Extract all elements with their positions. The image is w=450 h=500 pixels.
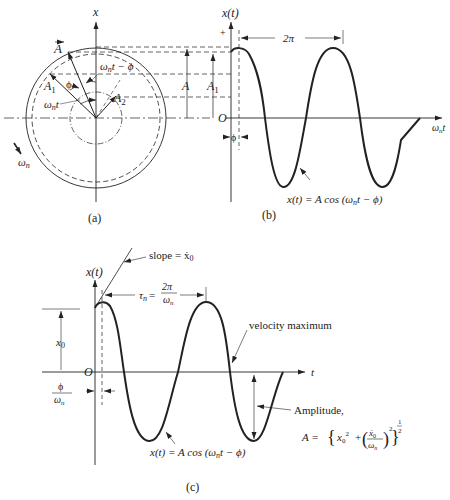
panel-c-caption: (c) bbox=[186, 480, 199, 494]
harmonic-motion-figure: x A A1 A2 ϕ ωnt ωnt − ϕ ωn A A1 (a) x(t)… bbox=[0, 0, 450, 500]
phase-denominator-c: ωn bbox=[54, 394, 65, 407]
angle-arc-wt-minus-phi bbox=[86, 81, 96, 83]
dim-A-label: A bbox=[181, 79, 190, 93]
angle-arc-wt bbox=[80, 100, 96, 104]
phase-numerator-c: ϕ bbox=[58, 381, 63, 392]
panel-a-caption: (a) bbox=[88, 211, 101, 225]
panel-a-labels: x A A1 A2 ϕ ωnt ωnt − ϕ ωn A A1 (a) bbox=[18, 5, 219, 225]
vector-A2 bbox=[96, 96, 116, 118]
plus-sign: + bbox=[220, 27, 226, 38]
panel-b-y-label: x(t) bbox=[221, 6, 239, 20]
panel-b-caption: (b) bbox=[262, 208, 276, 222]
vector-A1-label: A1 bbox=[43, 79, 56, 95]
panel-b-equation: x(t) = A cos (ωnt − ϕ) bbox=[286, 193, 383, 207]
tau-denominator: ωn bbox=[163, 294, 174, 307]
panel-c-y-label: x(t) bbox=[85, 265, 103, 279]
panel-c-origin: O bbox=[84, 365, 93, 379]
amp-eq-x0: x02 bbox=[336, 430, 349, 445]
amp-eq-plus: + bbox=[355, 431, 361, 443]
panel-b-labels: x(t) + O ωnt 2π ϕ x(t) = A cos (ωnt − ϕ)… bbox=[218, 6, 446, 222]
wt-leader bbox=[60, 100, 80, 104]
vector-A-label: A bbox=[53, 41, 62, 56]
panel-a-phasor-diagram bbox=[4, 22, 231, 202]
amp-eq-A: A = bbox=[301, 431, 319, 443]
phi-angle-label: ϕ bbox=[66, 78, 72, 90]
wt-minus-phi-label: ωnt − ϕ bbox=[100, 60, 134, 74]
dim-A1-label: A1 bbox=[206, 79, 219, 95]
x0-label: x0 bbox=[55, 336, 65, 350]
equation-leader-c bbox=[166, 432, 175, 444]
cosine-wave-b bbox=[231, 48, 420, 187]
amplitude-leader bbox=[257, 406, 291, 410]
slope-label: slope = ẋ0 bbox=[149, 249, 193, 263]
exp-numerator: 1 bbox=[398, 418, 402, 426]
panel-c-equation: x(t) = A cos (ωnt − ϕ) bbox=[149, 446, 246, 460]
period-label: 2π bbox=[283, 32, 295, 44]
rotation-omega-label: ωn bbox=[18, 156, 30, 170]
equation-leader-b bbox=[300, 168, 310, 180]
rotation-arrow bbox=[14, 143, 21, 154]
left-brace: { bbox=[327, 427, 336, 447]
vector-A2-label: A2 bbox=[113, 91, 126, 107]
tau-label: τn= bbox=[139, 289, 155, 303]
wt-angle-label: ωnt bbox=[44, 98, 60, 112]
tau-numerator: 2π bbox=[162, 281, 173, 292]
velocity-leader bbox=[232, 330, 247, 363]
slope-leader bbox=[124, 257, 146, 262]
phase-label: ϕ bbox=[231, 132, 236, 143]
panel-b-origin: O bbox=[218, 111, 227, 125]
panel-b-time-response bbox=[224, 22, 442, 202]
velocity-maximum-label: velocity maximum bbox=[249, 319, 332, 331]
amp-eq-xdot: ẋ0 bbox=[368, 428, 376, 439]
panel-c-labels: x(t) O t slope = ẋ0 τn= 2π ωn x0 ϕ ωn ve… bbox=[54, 249, 402, 494]
x-axis-label: x bbox=[92, 5, 99, 19]
exp-denominator: 2 bbox=[398, 427, 402, 435]
amp-eq-omega: ωn bbox=[368, 440, 377, 451]
panel-c-x-label: t bbox=[311, 366, 315, 378]
amplitude-label: Amplitude, bbox=[294, 404, 344, 416]
wt-minus-phi-leader bbox=[92, 74, 98, 80]
amplitude-equation: A = { x02 + ( ẋ0 ωn ) 2 } 1 2 bbox=[301, 418, 402, 451]
vector-A1 bbox=[50, 74, 96, 118]
panel-b-x-label: ωnt bbox=[432, 122, 446, 135]
